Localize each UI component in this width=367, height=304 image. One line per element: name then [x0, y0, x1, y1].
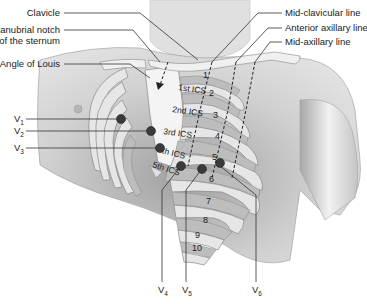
label-mid-clavicular-line: Mid-clavicular line: [285, 7, 361, 18]
rib-number-8: 8: [203, 215, 208, 225]
label-v3: V3: [14, 142, 24, 155]
label-angle-of-louis: Angle of Louis: [0, 58, 60, 69]
electrode-v5: [198, 165, 207, 174]
label-v4: V4: [158, 284, 168, 297]
right-labels: Mid-clavicular line Anterior axillary li…: [285, 7, 367, 47]
electrode-v3: [156, 144, 165, 153]
rib-number-6: 6: [209, 174, 214, 184]
label-v5: V5: [182, 284, 192, 297]
label-manubrial-notch-2: of the sternum: [0, 35, 60, 46]
label-v6: V6: [252, 284, 262, 297]
rib-number-2: 2: [209, 88, 214, 98]
label-anterior-axillary-line: Anterior axillary line: [285, 22, 367, 33]
bottom-labels: V4 V5 V6: [158, 284, 262, 297]
rib-number-1: 1: [203, 70, 208, 80]
electrode-v6: [216, 159, 225, 168]
electrode-v4: [177, 162, 186, 171]
electrode-v2: [147, 127, 156, 136]
label-manubrial-notch-1: Manubrial notch: [0, 24, 60, 35]
rib-number-3: 3: [213, 110, 218, 120]
label-v2: V2: [14, 125, 24, 138]
electrode-v1: [117, 115, 126, 124]
label-mid-axillary-line: Mid-axillary line: [285, 36, 350, 47]
label-clavicle: Clavicle: [27, 7, 60, 18]
rib-number-9: 9: [195, 230, 200, 240]
rib-number-7: 7: [206, 196, 211, 206]
rib-number-4: 4: [215, 131, 220, 141]
rib-number-10: 10: [192, 243, 202, 253]
ecg-chest-diagram: 1st ICS 2nd ICS 3rd ICS 4th ICS 5th ICS …: [0, 0, 367, 304]
